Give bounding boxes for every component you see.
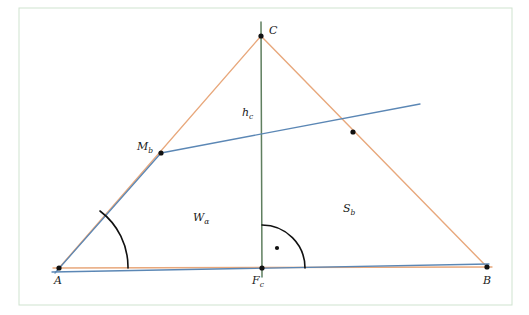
- label-h-c-subscript: c: [249, 112, 254, 121]
- segments-group: [52, 22, 492, 277]
- altitude-hc: [261, 22, 262, 277]
- point-label-mb: Mb: [136, 140, 153, 155]
- point-label-a: A: [53, 274, 62, 287]
- label-w-alpha: Wα: [193, 211, 209, 226]
- point-label-sub-fc: c: [260, 280, 265, 289]
- point-label-sub-mb: b: [148, 146, 153, 155]
- point-c: [258, 33, 263, 38]
- diagram-canvas: ABCMbFc hcWαSb: [0, 0, 529, 315]
- label-s-b-subscript: b: [351, 208, 356, 217]
- point-labels-group: ABCMbFc: [53, 24, 491, 289]
- point-b: [484, 264, 489, 269]
- point-wx: [350, 129, 355, 134]
- label-h-c: hc: [242, 106, 254, 121]
- right-angle-arc-fc: [262, 225, 305, 268]
- point-label-c: C: [269, 24, 278, 37]
- triangle-side-cb: [261, 36, 487, 267]
- median-s-b: [161, 104, 420, 153]
- measure-labels-group: hcWαSb: [193, 106, 356, 226]
- geometry-figure: ABCMbFc hcWαSb: [0, 0, 529, 315]
- label-s-b: Sb: [343, 202, 356, 217]
- points-group: [56, 33, 489, 270]
- point-label-b: B: [482, 274, 491, 287]
- point-a: [56, 265, 61, 270]
- diagram-frame: [19, 8, 512, 305]
- point-mb: [158, 150, 163, 155]
- label-w-alpha-subscript: α: [204, 217, 209, 226]
- angle-arc-alpha: [100, 211, 128, 268]
- point-fc: [259, 265, 264, 270]
- right-angle-dot: [275, 246, 279, 250]
- median-s-b-left: [55, 153, 161, 273]
